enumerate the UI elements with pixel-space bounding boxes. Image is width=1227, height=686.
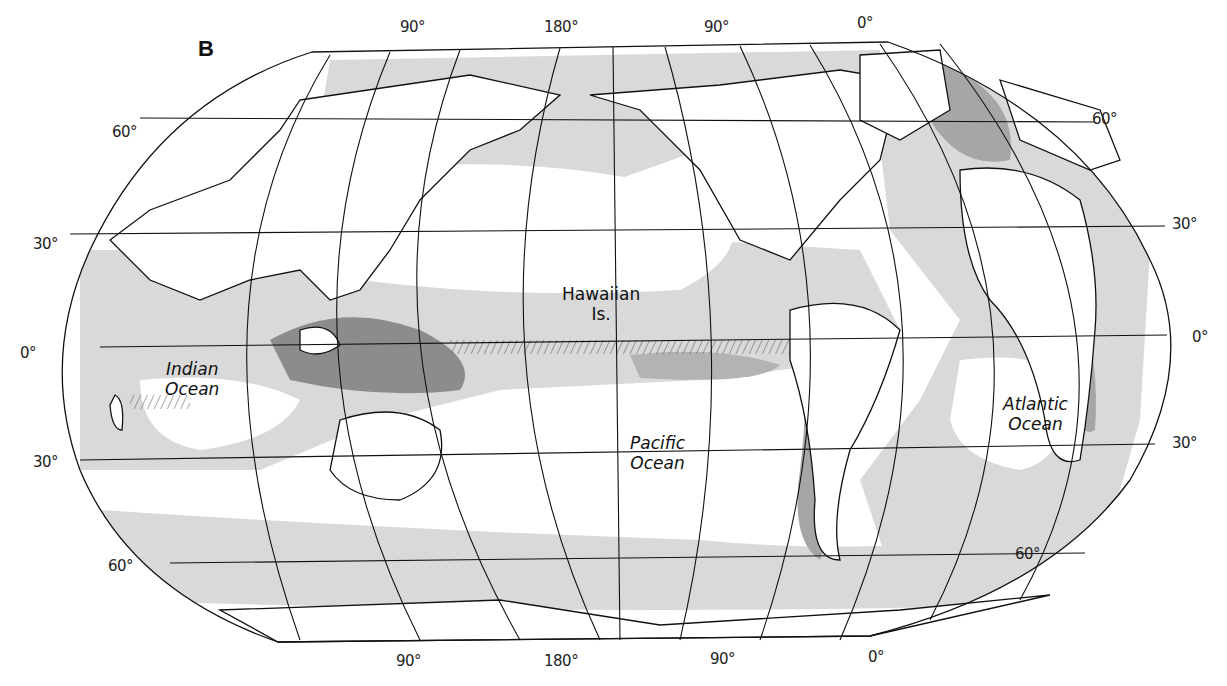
- lon-label-top-90w: 90°: [400, 18, 425, 36]
- lat-label-right-30n: 30°: [1172, 215, 1197, 233]
- label-atlantic-line1: Atlantic: [1003, 394, 1068, 414]
- map-canvas: [0, 0, 1227, 686]
- label-atlantic-ocean: Atlantic Ocean: [1003, 394, 1068, 434]
- label-atlantic-line2: Ocean: [1003, 414, 1068, 434]
- lat-label-left-30n: 30°: [33, 235, 58, 253]
- lon-label-bottom-180: 180°: [544, 652, 578, 670]
- label-pacific-ocean: Pacific Ocean: [630, 433, 685, 473]
- lat-label-right-60n: 60°: [1092, 110, 1117, 128]
- label-hawaii-line2: Is.: [562, 304, 640, 324]
- world-map-figure: B 90° 180° 90° 0° 90° 180° 90° 0° 60° 30…: [0, 0, 1227, 686]
- lat-label-left-30s: 30°: [33, 453, 58, 471]
- lon-label-bottom-90w: 90°: [396, 652, 421, 670]
- lat-label-left-60n: 60°: [112, 123, 137, 141]
- lon-label-top-180: 180°: [544, 18, 578, 36]
- label-indian-ocean: Indian Ocean: [165, 359, 219, 399]
- label-pacific-line1: Pacific: [630, 433, 685, 453]
- gyre-south-pacific: [435, 400, 791, 530]
- lat-label-left-60s: 60°: [108, 557, 133, 575]
- label-hawaii-line1: Hawaiian: [562, 284, 640, 304]
- lon-label-bottom-90e: 90°: [710, 650, 735, 668]
- label-pacific-line2: Ocean: [630, 453, 685, 473]
- lon-label-bottom-0: 0°: [868, 648, 884, 666]
- lat-label-left-0: 0°: [20, 344, 36, 362]
- ocean-shading-layer: [80, 50, 1150, 610]
- lat-label-right-60s: 60°: [1015, 545, 1040, 563]
- panel-letter: B: [198, 36, 214, 62]
- label-indian-line2: Ocean: [165, 379, 219, 399]
- label-hawaiian-islands: Hawaiian Is.: [562, 284, 640, 324]
- lat-label-right-0: 0°: [1192, 328, 1208, 346]
- lon-label-top-0: 0°: [857, 14, 873, 32]
- lat-label-right-30s: 30°: [1172, 434, 1197, 452]
- label-indian-line1: Indian: [165, 359, 219, 379]
- lon-label-top-90e: 90°: [704, 18, 729, 36]
